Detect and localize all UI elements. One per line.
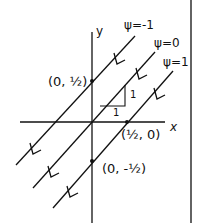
point-0-minus-half — [90, 159, 94, 163]
y-axis-label: y — [96, 24, 103, 38]
arrow-icon — [48, 166, 59, 177]
slope-run-label: 1 — [113, 107, 119, 118]
arrow-icon — [114, 53, 125, 64]
label-psi-1: ψ=1 — [163, 55, 189, 69]
arrow-icon — [154, 88, 165, 99]
streamline-psi-minus-1 — [16, 36, 135, 165]
slope-rise-label: 1 — [130, 89, 136, 100]
point-0-half — [90, 79, 94, 83]
label-psi-minus-1: ψ=-1 — [124, 18, 154, 32]
arrow-icon — [136, 68, 147, 79]
label-point-half-0: (½, 0) — [121, 127, 160, 142]
label-point-0-half: (0, ½) — [48, 74, 87, 89]
streamline-diagram: y x ψ=-1 ψ=0 ψ=1 1 1 (0, ½) (½, 0) (0, -… — [0, 0, 199, 223]
slope-triangle — [100, 85, 125, 106]
arrow-icon — [67, 186, 78, 197]
label-psi-0: ψ=0 — [154, 36, 180, 50]
label-point-0-minus-half: (0, -½) — [102, 161, 146, 176]
x-axis-label: x — [169, 120, 178, 134]
point-half-0 — [125, 120, 129, 124]
